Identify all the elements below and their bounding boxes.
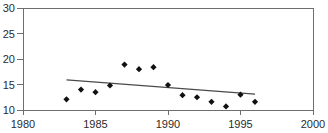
data-point xyxy=(252,99,258,105)
data-point xyxy=(208,99,214,105)
scatter-chart: 30 25 20 15 10 1980 1985 1990 1995 2000 xyxy=(0,0,328,133)
data-point xyxy=(121,62,127,68)
chart-canvas: 30 25 20 15 10 1980 1985 1990 1995 2000 xyxy=(0,0,328,133)
data-point xyxy=(63,96,69,102)
x-tick-label-1980: 1980 xyxy=(11,118,35,130)
y-tick-label-25: 25 xyxy=(3,28,15,40)
y-axis-ticks: 30 25 20 15 10 xyxy=(3,2,23,116)
y-tick-label-30: 30 xyxy=(3,2,15,14)
data-point xyxy=(223,103,229,109)
y-tick-label-15: 15 xyxy=(3,79,15,91)
data-point xyxy=(194,94,200,100)
y-tick-label-10: 10 xyxy=(3,104,15,116)
x-tick-label-1995: 1995 xyxy=(228,118,252,130)
x-axis-ticks: 1980 1985 1990 1995 2000 xyxy=(11,110,325,130)
plot-frame xyxy=(23,8,313,110)
y-tick-label-20: 20 xyxy=(3,53,15,65)
data-point xyxy=(150,64,156,70)
x-tick-label-1985: 1985 xyxy=(83,118,107,130)
data-point xyxy=(78,87,84,93)
x-tick-label-1990: 1990 xyxy=(156,118,180,130)
x-tick-label-2000: 2000 xyxy=(301,118,325,130)
data-point-group xyxy=(63,62,258,110)
data-point xyxy=(92,89,98,95)
data-point xyxy=(136,66,142,72)
data-point xyxy=(179,92,185,98)
